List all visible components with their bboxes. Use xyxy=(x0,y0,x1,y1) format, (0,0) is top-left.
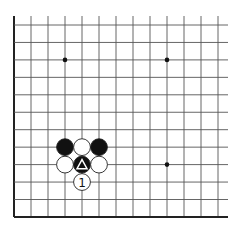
black-stone-icon xyxy=(57,139,74,156)
white-stone xyxy=(57,156,74,173)
go-board: 1 xyxy=(0,0,242,229)
white-stone xyxy=(74,139,91,156)
star-point-icon xyxy=(165,58,170,63)
star-point-icon xyxy=(63,58,68,63)
white-stone xyxy=(91,156,108,173)
black-stone xyxy=(74,156,91,173)
black-stone xyxy=(57,139,74,156)
white-stone-icon xyxy=(74,139,91,156)
stones: 1 xyxy=(57,139,108,191)
white-stone-icon xyxy=(91,156,108,173)
black-stone xyxy=(91,139,108,156)
black-stone-icon xyxy=(91,139,108,156)
board-grid xyxy=(14,16,228,217)
white-stone-icon xyxy=(57,156,74,173)
white-stone: 1 xyxy=(74,174,91,191)
move-number-label: 1 xyxy=(78,176,86,190)
star-point-icon xyxy=(165,162,170,167)
